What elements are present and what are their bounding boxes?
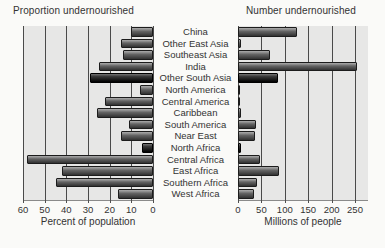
tick-label-left-40: 40 [61,204,72,215]
row-proportion-west-africa [23,188,153,200]
tick-mark-right-0 [238,200,239,203]
tick-label-left-50: 50 [39,204,50,215]
row-number-other-east-asia [238,38,368,50]
row-number-other-south-asia [238,72,368,84]
tick-label-right-0: 0 [235,204,240,215]
row-proportion-south-america [23,119,153,131]
row-number-east-africa [238,165,368,177]
tick-label-right-150: 150 [300,204,316,215]
bar-number-other-east-asia [238,39,241,49]
category-label-india: India [153,61,238,73]
bar-number-india [238,62,357,72]
tick-mark-left-20 [110,200,111,203]
tick-mark-right-200 [332,200,333,203]
bar-proportion-north-america [140,85,153,95]
category-label-north-africa: North Africa [153,142,238,154]
row-number-north-africa [238,142,368,154]
tick-label-left-60: 60 [18,204,29,215]
tick-label-right-250: 250 [347,204,363,215]
row-proportion-central-america [23,96,153,108]
tick-mark-left-60 [23,200,24,203]
bar-proportion-other-south-asia [90,73,153,83]
bar-number-north-africa [238,143,241,153]
bar-proportion-india [99,62,153,72]
row-proportion-india [23,61,153,73]
row-number-southeast-asia [238,49,368,61]
bar-proportion-central-africa [27,155,153,165]
tick-label-right-100: 100 [277,204,293,215]
bar-number-southeast-asia [238,50,270,60]
row-proportion-north-africa [23,142,153,154]
bar-number-central-america [238,97,240,107]
row-number-southern-africa [238,177,368,189]
category-label-north-america: North America [153,84,238,96]
category-labels-column: ChinaOther East AsiaSoutheast AsiaIndiaO… [153,26,238,200]
tick-label-left-20: 20 [104,204,115,215]
category-label-near-east: Near East [153,130,238,142]
row-proportion-southeast-asia [23,49,153,61]
left-x-axis: 6050403020100 [23,200,153,216]
bar-number-china [238,27,297,37]
category-label-southern-africa: Southern Africa [153,177,238,189]
chart-canvas: Proportion undernourished Number underno… [0,0,385,248]
left-axis-label: Percent of population [23,216,153,227]
bar-proportion-north-africa [142,143,153,153]
tick-label-right-200: 200 [324,204,340,215]
tick-mark-right-250 [355,200,356,203]
bar-number-south-america [238,120,256,130]
bar-proportion-other-east-asia [121,39,154,49]
category-label-caribbean: Caribbean [153,107,238,119]
category-label-west-africa: West Africa [153,188,238,200]
category-label-other-south-asia: Other South Asia [153,72,238,84]
tick-label-left-0: 0 [150,204,155,215]
tick-label-right-50: 50 [256,204,267,215]
bar-proportion-caribbean [97,108,153,118]
tick-mark-left-10 [131,200,132,203]
left-chart-title: Proportion undernourished [13,5,134,16]
left-plot-area [23,26,153,201]
bar-number-east-africa [238,166,279,176]
row-proportion-north-america [23,84,153,96]
bar-proportion-southeast-asia [123,50,153,60]
left-bar-rows [23,26,153,200]
tick-mark-right-150 [308,200,309,203]
category-label-east-africa: East Africa [153,165,238,177]
bar-proportion-china [131,27,153,37]
bar-number-other-south-asia [238,73,278,83]
bar-number-central-africa [238,155,260,165]
right-chart-title: Number undernourished [246,5,356,16]
bar-proportion-west-africa [118,189,153,199]
row-number-china [238,26,368,38]
row-number-north-america [238,84,368,96]
row-number-caribbean [238,107,368,119]
bar-proportion-near-east [121,131,154,141]
row-proportion-central-africa [23,154,153,166]
tick-mark-left-30 [88,200,89,203]
row-number-south-america [238,119,368,131]
bar-number-near-east [238,131,255,141]
row-number-india [238,61,368,73]
row-proportion-caribbean [23,107,153,119]
bar-proportion-east-africa [62,166,153,176]
category-label-south-america: South America [153,119,238,131]
row-number-near-east [238,130,368,142]
bar-proportion-south-america [129,120,153,130]
row-number-west-africa [238,188,368,200]
row-proportion-china [23,26,153,38]
bar-number-southern-africa [238,178,257,188]
right-axis-label: Millions of people [238,216,368,227]
tick-mark-right-50 [261,200,262,203]
right-bar-rows [238,26,368,200]
bar-number-caribbean [238,108,241,118]
category-label-central-america: Central America [153,96,238,108]
row-number-central-africa [238,154,368,166]
tick-mark-left-40 [66,200,67,203]
bar-proportion-southern-africa [56,178,154,188]
category-label-china: China [153,26,238,38]
right-plot-area [238,26,368,201]
tick-mark-right-100 [285,200,286,203]
bar-proportion-central-america [105,97,153,107]
bar-number-west-africa [238,189,254,199]
row-proportion-near-east [23,130,153,142]
row-number-central-america [238,96,368,108]
